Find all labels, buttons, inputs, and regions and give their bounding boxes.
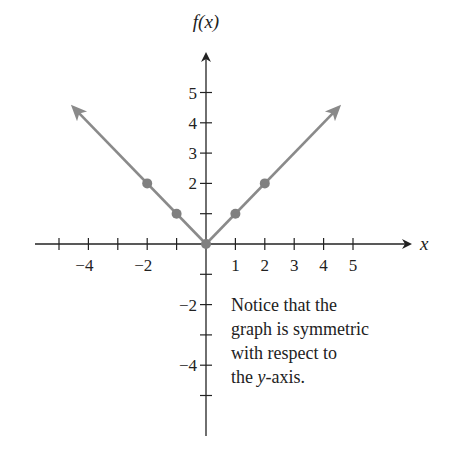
x-tick-label: 5 <box>349 256 358 275</box>
data-point <box>172 209 182 219</box>
annotation-line: with respect to <box>231 343 337 363</box>
x-tick-label: −2 <box>134 256 152 275</box>
annotation-line: graph is symmetric <box>231 319 369 339</box>
y-tick-label: 3 <box>189 144 198 163</box>
y-tick-label: −2 <box>179 296 197 315</box>
annotation-line: Notice that the <box>231 295 337 315</box>
graph-right-branch <box>206 108 338 244</box>
data-point <box>260 178 270 188</box>
y-tick-label: 2 <box>189 174 198 193</box>
y-tick-label: −4 <box>179 356 198 375</box>
x-tick-label: 4 <box>319 256 328 275</box>
chart: −4−2123455432−2−4 Notice that thegraph i… <box>0 0 452 452</box>
data-point <box>142 178 152 188</box>
y-tick-label: 4 <box>189 114 198 133</box>
y-tick-label: 5 <box>189 84 198 103</box>
x-tick-label: −4 <box>75 256 94 275</box>
x-axis-label: x <box>419 233 429 254</box>
graph-left-branch <box>74 108 206 244</box>
x-tick-label: 3 <box>290 256 299 275</box>
y-axis-label: f(x) <box>193 11 219 33</box>
axes <box>35 54 410 436</box>
annotation: Notice that thegraph is symmetricwith re… <box>231 295 369 387</box>
x-tick-label: 2 <box>261 256 270 275</box>
annotation-line: the y-axis. <box>231 367 305 387</box>
data-point <box>230 209 240 219</box>
data-point <box>201 239 211 249</box>
x-tick-label: 1 <box>231 256 240 275</box>
